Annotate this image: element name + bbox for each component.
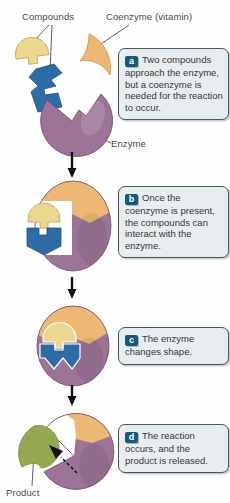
stage-a-shapes — [13, 34, 112, 156]
flow-arrow-2 — [68, 277, 77, 299]
step-a-badge: a — [125, 56, 138, 67]
flow-arrow-3 — [68, 385, 77, 406]
compound-yellow-shape-a — [13, 35, 49, 66]
enzyme-label: Enzyme — [111, 138, 146, 149]
product-label: Product — [6, 487, 39, 498]
enzyme-coenzyme-diagram: Compounds Coenzyme (vitamin) Enzyme Prod… — [0, 0, 230, 503]
egg-shading-b — [77, 213, 107, 265]
coenzyme-label: Coenzyme (vitamin) — [106, 11, 192, 22]
step-b-badge: b — [125, 194, 138, 205]
step-d-badge: d — [125, 432, 138, 443]
step-b-text: Once the coenzyme is present, the compou… — [125, 192, 215, 251]
stage-d-shapes — [19, 407, 116, 489]
stage-b-shapes — [27, 181, 112, 271]
callout-d: dThe reaction occurs, and the product is… — [118, 424, 229, 473]
step-a-text: Two compounds approach the enzyme, but a… — [125, 54, 223, 113]
step-c-badge: c — [125, 335, 138, 346]
compounds-pointer-line-2 — [50, 25, 52, 71]
callout-b: bOnce the coenzyme is present, the compo… — [118, 186, 229, 258]
callout-c: cThe enzyme changes shape. — [118, 327, 229, 365]
callout-a: aTwo compounds approach the enzyme, but … — [118, 48, 229, 120]
compounds-label: Compounds — [22, 11, 74, 22]
stage-c-shapes — [37, 306, 109, 386]
pacman-shading-d — [79, 444, 109, 488]
